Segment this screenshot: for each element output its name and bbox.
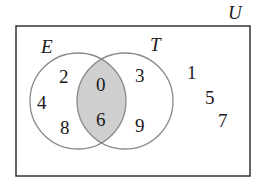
element: 8 xyxy=(60,117,70,138)
set-e-label: E xyxy=(40,36,53,57)
element: 5 xyxy=(205,87,215,108)
set-t-label: T xyxy=(150,34,162,55)
element: 0 xyxy=(96,74,106,95)
element: 3 xyxy=(135,65,145,86)
universe-label: U xyxy=(228,2,243,23)
element: 2 xyxy=(59,66,69,87)
element: 4 xyxy=(37,92,47,113)
element: 9 xyxy=(135,115,145,136)
element: 7 xyxy=(218,110,228,131)
element: 1 xyxy=(187,62,197,83)
element: 6 xyxy=(96,109,106,130)
venn-diagram: U E T 2 4 8 0 6 3 9 1 5 7 xyxy=(0,0,274,185)
